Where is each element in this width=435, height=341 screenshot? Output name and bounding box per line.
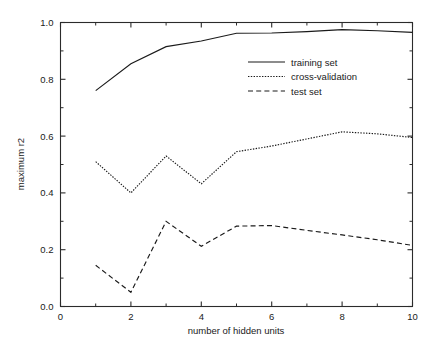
x-tick-label: 0 — [58, 311, 63, 322]
y-tick-label: 0.0 — [40, 301, 53, 312]
legend-label-training-set: training set — [291, 57, 338, 68]
y-tick-label: 0.4 — [40, 187, 53, 198]
x-tick-label: 2 — [128, 311, 133, 322]
y-tick-label: 1.0 — [40, 17, 53, 28]
y-tick-label: 0.6 — [40, 131, 53, 142]
x-tick-label: 8 — [339, 311, 344, 322]
x-tick-label: 6 — [269, 311, 274, 322]
x-axis-title: number of hidden units — [188, 325, 285, 336]
chart-background — [0, 0, 435, 341]
y-tick-label: 0.8 — [40, 74, 53, 85]
legend-label-test-set: test set — [291, 86, 322, 97]
line-chart: 0246810 0.00.20.40.60.81.0 number of hid… — [0, 0, 435, 341]
x-tick-label: 4 — [199, 311, 204, 322]
legend-label-cross-validation: cross-validation — [291, 71, 357, 82]
y-axis-title: maximum r2 — [15, 138, 26, 190]
y-tick-label: 0.2 — [40, 244, 53, 255]
chart-figure: 0246810 0.00.20.40.60.81.0 number of hid… — [0, 0, 435, 341]
x-tick-label: 10 — [407, 311, 418, 322]
